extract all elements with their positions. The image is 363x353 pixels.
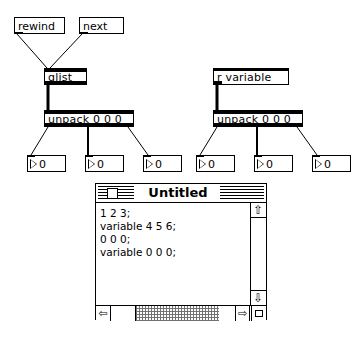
pd-patch-screenshot: rewindnext qlistr variableunpack 0 0 0un… <box>0 0 363 353</box>
number-box-number-left-2[interactable]: 0 <box>85 155 124 172</box>
arrow-left-icon: ⇦ <box>98 308 107 319</box>
inlet-nub[interactable] <box>28 155 35 157</box>
title-stripes-right <box>220 186 264 200</box>
window-resize-grow-box[interactable] <box>251 306 267 321</box>
outlet-nub[interactable] <box>15 32 23 34</box>
number-value: 0 <box>266 157 273 170</box>
scroll-left-button[interactable]: ⇦ <box>96 306 111 321</box>
text-window[interactable]: Untitled 1 2 3;variable 4 5 6;0 0 0;vari… <box>95 183 267 320</box>
text-line: variable 4 5 6; <box>100 220 250 233</box>
number-triangle-inner <box>147 160 152 168</box>
object-label: qlist <box>48 71 72 82</box>
number-box-number-right-2[interactable]: 0 <box>254 155 293 172</box>
number-triangle-inner <box>200 160 205 168</box>
text-line: 0 0 0; <box>100 233 250 246</box>
object-box-unpack-left[interactable]: unpack 0 0 0 <box>44 110 134 127</box>
inlet-nub[interactable] <box>144 155 151 157</box>
number-box-number-left-3[interactable]: 0 <box>143 155 182 172</box>
arrow-down-icon: ⇩ <box>253 292 263 304</box>
scroll-down-button[interactable]: ⇩ <box>251 290 266 305</box>
cord-unpackL-out3-to-num3[interactable] <box>128 127 148 155</box>
number-triangle-inner <box>258 160 263 168</box>
message-label: next <box>83 19 107 32</box>
window-body: 1 2 3;variable 4 5 6;0 0 0;variable 0 0 … <box>96 203 266 321</box>
text-line: variable 0 0 0; <box>100 246 250 259</box>
grow-box-icon <box>255 310 263 317</box>
window-title: Untitled <box>144 186 212 200</box>
number-value: 0 <box>97 157 104 170</box>
horizontal-scroll-track[interactable] <box>136 306 219 321</box>
scroll-up-button[interactable]: ⇧ <box>251 203 266 218</box>
text-line: 1 2 3; <box>100 207 250 220</box>
message-label: rewind <box>18 19 55 32</box>
inlet-nub[interactable] <box>197 155 204 157</box>
cord-next-to-qlist[interactable] <box>50 34 82 68</box>
number-value: 0 <box>208 157 215 170</box>
number-box-number-right-1[interactable]: 0 <box>196 155 235 172</box>
arrow-right-icon: ⇨ <box>238 308 247 319</box>
scroll-right-button[interactable]: ⇨ <box>235 306 250 321</box>
object-label: r variable <box>217 71 271 82</box>
number-value: 0 <box>324 157 331 170</box>
number-value: 0 <box>155 157 162 170</box>
number-box-number-right-3[interactable]: 0 <box>312 155 351 172</box>
vertical-scrollbar[interactable]: ⇧ ⇩ <box>250 203 266 305</box>
message-box-next[interactable]: next <box>79 17 124 34</box>
cord-rewind-to-qlist[interactable] <box>17 34 47 68</box>
window-title-bar[interactable]: Untitled <box>96 184 266 203</box>
text-editor-area[interactable]: 1 2 3;variable 4 5 6;0 0 0;variable 0 0 … <box>96 203 250 305</box>
number-box-number-left-1[interactable]: 0 <box>27 155 66 172</box>
horizontal-scrollbar[interactable]: ⇦ ⇨ <box>96 305 266 321</box>
cord-unpackR-out1-to-num4[interactable] <box>200 127 217 155</box>
close-box-icon[interactable] <box>107 188 118 199</box>
message-box-rewind[interactable]: rewind <box>14 17 65 34</box>
number-value: 0 <box>39 157 46 170</box>
inlet-nub[interactable] <box>255 155 262 157</box>
number-triangle-inner <box>89 160 94 168</box>
cord-unpackL-out1-to-num1[interactable] <box>31 127 48 155</box>
object-box-qlist[interactable]: qlist <box>44 68 87 85</box>
object-label: unpack 0 0 0 <box>48 113 122 124</box>
horizontal-scroll-thumb[interactable] <box>111 306 136 321</box>
inlet-nub[interactable] <box>313 155 320 157</box>
inlet-nub[interactable] <box>86 155 93 157</box>
outlet-nub[interactable] <box>80 32 88 34</box>
number-triangle-inner <box>31 160 36 168</box>
object-box-unpack-right[interactable]: unpack 0 0 0 <box>213 110 303 127</box>
cord-unpackR-out3-to-num6[interactable] <box>297 127 317 155</box>
arrow-up-icon: ⇧ <box>253 204 263 216</box>
vertical-scroll-track[interactable] <box>251 218 266 290</box>
object-box-r-variable[interactable]: r variable <box>213 68 289 85</box>
number-triangle-inner <box>316 160 321 168</box>
patch-canvas[interactable]: rewindnext qlistr variableunpack 0 0 0un… <box>0 0 363 180</box>
object-label: unpack 0 0 0 <box>217 113 291 124</box>
